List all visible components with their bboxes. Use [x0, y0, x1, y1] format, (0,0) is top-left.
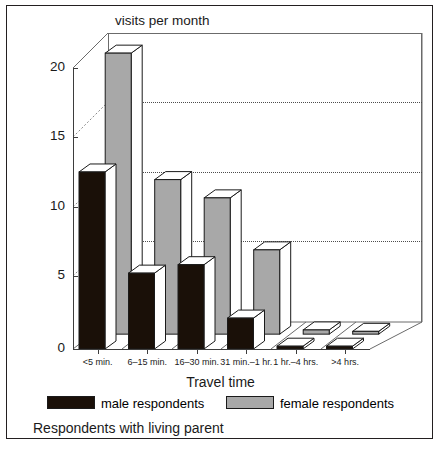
x-tick-5	[345, 349, 346, 354]
x-axis-title: Travel time	[7, 374, 434, 390]
y-tick-15	[73, 137, 78, 138]
y-tick-label-15: 15	[25, 128, 65, 143]
x-tick-0	[98, 349, 99, 354]
chart-caption: Respondents with living parent	[33, 420, 224, 436]
legend-swatch-male	[47, 396, 95, 409]
legend-swatch-female	[226, 396, 274, 409]
chart-legend: male respondents female respondents	[7, 394, 434, 411]
legend-label-female: female respondents	[280, 396, 394, 411]
x-axis-line	[73, 349, 370, 350]
x-tick-4	[296, 349, 297, 354]
x-tick-3	[246, 349, 247, 354]
y-axis-line	[73, 68, 74, 349]
y-tick-label-10: 10	[25, 198, 65, 213]
y-tick-label-0: 0	[25, 340, 65, 355]
x-tick-1	[147, 349, 148, 354]
y-tick-10	[73, 207, 78, 208]
legend-item-male: male respondents	[47, 395, 204, 411]
y-tick-label-20: 20	[25, 59, 65, 74]
legend-label-male: male respondents	[101, 396, 204, 411]
chart-frame: visits per month 20 15 10 5 0	[6, 5, 433, 439]
x-tick-label-5: >4 hrs.	[305, 357, 385, 367]
y-tick-label-5: 5	[25, 267, 65, 282]
legend-item-female: female respondents	[226, 395, 394, 411]
y-tick-5	[73, 276, 78, 277]
x-tick-2	[197, 349, 198, 354]
y-tick-20	[73, 68, 78, 69]
